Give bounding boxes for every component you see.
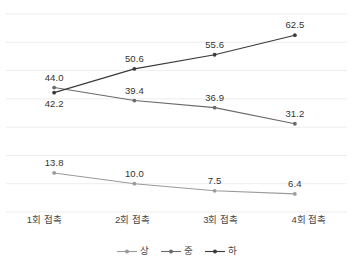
data-point: [132, 99, 136, 103]
x-tick-label-4: 4회 접촉: [265, 212, 353, 232]
legend-item-상[interactable]: 상: [117, 245, 149, 257]
series-중: [52, 86, 297, 126]
series-line: [54, 88, 295, 124]
legend-marker-icon: [161, 247, 181, 256]
x-tick-label-3: 3회 접촉: [177, 212, 265, 232]
data-label: 55.6: [205, 39, 224, 50]
legend-label: 상: [140, 245, 149, 257]
legend-marker-icon: [117, 247, 137, 256]
data-label: 7.5: [208, 175, 222, 186]
x-tick-label-1: 1회 접촉: [0, 212, 88, 232]
data-point: [52, 86, 56, 90]
data-label: 62.5: [285, 19, 304, 30]
data-label: 50.6: [125, 53, 144, 64]
legend-label: 하: [228, 245, 237, 257]
x-tick-label-2: 2회 접촉: [88, 212, 176, 232]
data-label: 10.0: [125, 168, 144, 179]
data-point: [213, 189, 217, 193]
plot-area: 13.810.07.56.444.039.436.931.242.250.655…: [0, 0, 353, 228]
data-point: [132, 67, 136, 71]
data-point: [52, 91, 56, 95]
legend-marker-icon: [205, 247, 225, 256]
legend-item-하[interactable]: 하: [205, 245, 237, 257]
data-point: [213, 106, 217, 110]
data-label: 13.8: [45, 157, 64, 168]
legend-label: 중: [184, 245, 193, 257]
series-line: [54, 35, 295, 92]
data-label: 31.2: [285, 108, 304, 119]
x-axis: 1회 접촉2회 접촉3회 접촉4회 접촉: [0, 212, 353, 232]
data-label: 36.9: [205, 92, 224, 103]
data-point: [213, 53, 217, 57]
data-point: [293, 192, 297, 196]
data-point: [293, 33, 297, 37]
data-label: 44.0: [45, 72, 64, 83]
data-label: 42.2: [45, 98, 64, 109]
legend-item-중[interactable]: 중: [161, 245, 193, 257]
line-chart: 13.810.07.56.444.039.436.931.242.250.655…: [0, 0, 353, 265]
data-point: [293, 122, 297, 126]
data-point: [52, 171, 56, 175]
data-label: 39.4: [125, 85, 144, 96]
data-point: [132, 182, 136, 186]
chart-legend: 상중하: [0, 241, 353, 261]
data-label: 6.4: [288, 178, 302, 189]
